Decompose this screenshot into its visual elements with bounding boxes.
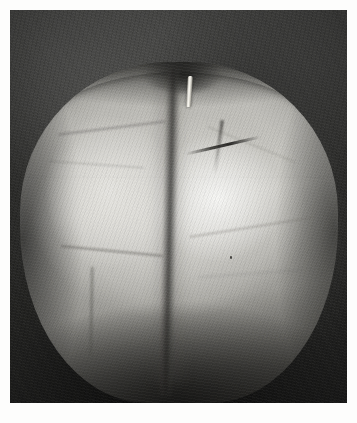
surface-speck xyxy=(230,256,233,259)
blemish-mark xyxy=(186,135,261,155)
right-lobe-facet-line xyxy=(208,126,297,163)
paper-sheet xyxy=(0,0,357,423)
right-lobe-facet-line xyxy=(189,216,315,237)
left-lobe-facet-line xyxy=(49,161,144,169)
central-crease xyxy=(158,69,181,397)
blemish-mark-stroke xyxy=(213,120,224,174)
left-lobe-facet-line xyxy=(61,245,162,256)
photographic-plate xyxy=(10,10,347,403)
graphite-grain xyxy=(20,62,338,403)
left-lobe-facet-line xyxy=(89,267,94,356)
stem-well-shadow xyxy=(141,62,224,93)
apple-subject xyxy=(20,62,338,403)
left-lobe-facet-line xyxy=(58,120,165,135)
right-lobe-facet-line xyxy=(198,270,306,279)
central-crease-soft xyxy=(150,89,188,382)
